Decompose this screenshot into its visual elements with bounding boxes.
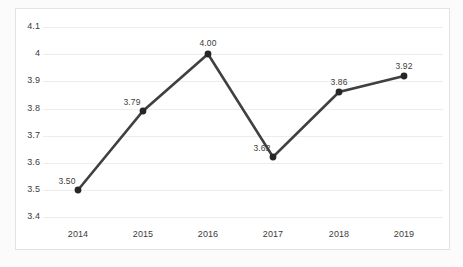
data-point-label: 3.79: [113, 97, 151, 107]
line-series: [0, 0, 463, 267]
x-axis-tick-label: 2019: [379, 229, 429, 239]
data-point-marker: [205, 51, 212, 58]
x-axis-tick-label: 2017: [248, 229, 298, 239]
data-point-marker: [336, 89, 343, 96]
data-point-marker: [270, 154, 277, 161]
data-point-label: 4.00: [189, 38, 227, 48]
series-line: [78, 54, 404, 190]
x-axis-tick-label: 2016: [183, 229, 233, 239]
x-axis-tick-label: 2014: [53, 229, 103, 239]
data-point-label: 3.62: [243, 143, 281, 153]
data-point-label: 3.86: [320, 77, 358, 87]
plot-area: 4.1 4 3.9 3.8 3.7 3.6 3.5 3.4 3.50 3.79 …: [0, 0, 463, 267]
data-point-label: 3.50: [48, 176, 86, 186]
data-point-label: 3.92: [385, 61, 423, 71]
data-point-marker: [140, 108, 147, 115]
chart-screenshot: 4.1 4 3.9 3.8 3.7 3.6 3.5 3.4 3.50 3.79 …: [0, 0, 463, 267]
x-axis-tick-label: 2015: [118, 229, 168, 239]
x-axis-tick-label: 2018: [314, 229, 364, 239]
data-point-marker: [401, 73, 408, 80]
data-point-marker: [75, 187, 82, 194]
